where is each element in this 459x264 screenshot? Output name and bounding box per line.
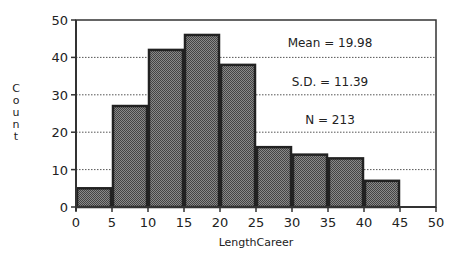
x-tick-label: 35 [320, 215, 337, 230]
stat-mean: Mean = 19.98 [288, 36, 373, 50]
x-axis-ticks: 05101520253035404550 [72, 207, 444, 230]
x-tick-label: 50 [428, 215, 445, 230]
x-axis-title: LengthCareer [219, 236, 294, 249]
stat-n: N = 213 [305, 113, 355, 127]
y-axis-title: Count [12, 82, 20, 143]
x-tick-label: 0 [72, 215, 80, 230]
x-tick-label: 10 [140, 215, 157, 230]
x-tick-label: 45 [392, 215, 409, 230]
x-tick-label: 5 [108, 215, 116, 230]
histogram-bar [365, 181, 399, 207]
histogram-chart: 01020304050 05101520253035404550 Mean = … [0, 0, 459, 264]
histogram-bar [221, 65, 255, 207]
y-tick-label: 40 [51, 50, 68, 65]
x-tick-label: 25 [248, 215, 265, 230]
histogram-bar [329, 158, 363, 207]
x-tick-label: 30 [284, 215, 301, 230]
histogram-bar [149, 50, 183, 207]
svg-text:t: t [14, 130, 19, 143]
stat-sd: S.D. = 11.39 [292, 75, 369, 89]
x-tick-label: 40 [356, 215, 373, 230]
stats-annotations: Mean = 19.98S.D. = 11.39N = 213 [288, 36, 373, 127]
histogram-bar [185, 35, 219, 207]
y-tick-label: 0 [60, 200, 68, 215]
y-axis-ticks: 01020304050 [51, 13, 76, 215]
y-tick-label: 50 [51, 13, 68, 28]
histogram-bar [113, 106, 147, 207]
histogram-bar [257, 147, 291, 207]
y-tick-label: 10 [51, 163, 68, 178]
histogram-bar [77, 188, 111, 207]
y-tick-label: 30 [51, 88, 68, 103]
histogram-bar [293, 155, 327, 207]
x-tick-label: 20 [212, 215, 229, 230]
y-tick-label: 20 [51, 125, 68, 140]
x-tick-label: 15 [176, 215, 193, 230]
